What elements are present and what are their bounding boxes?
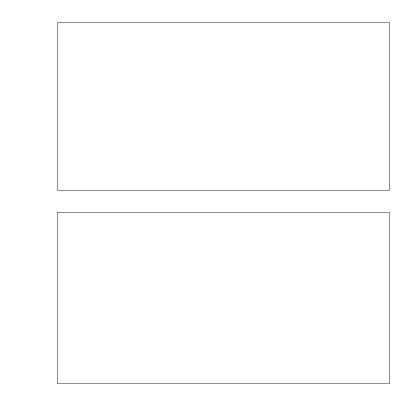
y-axis-title-usd-jpy [2,21,16,196]
plot-svg-nikkei-225 [57,212,390,384]
chart-panel-usd-jpy [0,13,406,209]
x-axis-ticks-usd-jpy [57,193,390,207]
figure [0,9,406,410]
y-axis-title-nikkei-225 [2,212,16,388]
y-axis-ticks-nikkei-225 [22,208,52,410]
y-axis-ticks-usd-jpy [22,13,52,209]
plot-svg-usd-jpy [57,22,390,191]
plot-area-nikkei-225 [57,212,390,384]
running-header [0,0,406,9]
x-axis-ticks-nikkei-225 [57,386,390,400]
plot-area-usd-jpy [57,22,390,191]
chart-panel-nikkei-225 [0,208,406,410]
